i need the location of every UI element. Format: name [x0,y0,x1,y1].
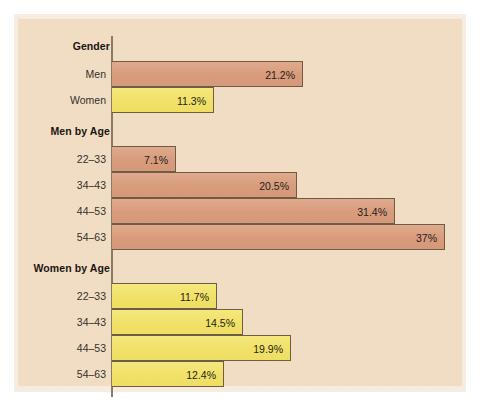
bar-women: 11.7% [112,283,217,309]
bar-value-label: 19.9% [253,336,283,362]
category-label: 54–63 [0,224,106,250]
bar-women: 11.3% [112,87,214,113]
bar-value-label: 11.3% [177,88,206,114]
bar-value-label: 37% [416,225,437,251]
bar-men: 20.5% [112,172,297,198]
bar-men: 31.4% [112,198,395,224]
bar-row: Men21.2% [18,61,462,87]
bar-row: 44–5331.4% [18,198,462,224]
category-label: 22–33 [0,146,106,172]
category-label: Men [0,61,106,87]
bar-row: 34–4320.5% [18,172,462,198]
category-label: 34–43 [0,309,106,335]
scanned-chart-page: GenderMen21.2%Women11.3%Men by Age22–337… [0,0,486,412]
bar-row: 34–4314.5% [18,309,462,335]
bar-row: 44–5319.9% [18,335,462,361]
bar-value-label: 21.2% [265,62,295,88]
chart-panel: GenderMen21.2%Women11.3%Men by Age22–337… [18,19,462,386]
category-label: 34–43 [0,172,106,198]
category-label: 44–53 [0,335,106,361]
category-label: 54–63 [0,361,106,387]
bar-men: 21.2% [112,61,303,87]
group-title: Men by Age [0,125,110,137]
group-title: Gender [0,40,110,52]
bar-women: 12.4% [112,361,224,387]
category-label: Women [0,87,106,113]
bar-value-label: 31.4% [357,199,387,225]
category-label: 22–33 [0,283,106,309]
bar-row: 54–6337% [18,224,462,250]
category-label: 44–53 [0,198,106,224]
plot-area: GenderMen21.2%Women11.3%Men by Age22–337… [18,19,462,386]
bar-women: 19.9% [112,335,291,361]
bar-value-label: 14.5% [205,310,235,336]
bar-row: 54–6312.4% [18,361,462,387]
bar-value-label: 7.1% [144,147,168,173]
group-title: Women by Age [0,262,110,274]
bar-men: 7.1% [112,146,176,172]
bar-value-label: 12.4% [186,362,216,388]
bar-value-label: 11.7% [180,284,209,310]
bar-value-label: 20.5% [259,173,289,199]
bar-row: Women11.3% [18,87,462,113]
bar-men: 37% [112,224,445,250]
bar-row: 22–337.1% [18,146,462,172]
bar-women: 14.5% [112,309,243,335]
bar-row: 22–3311.7% [18,283,462,309]
